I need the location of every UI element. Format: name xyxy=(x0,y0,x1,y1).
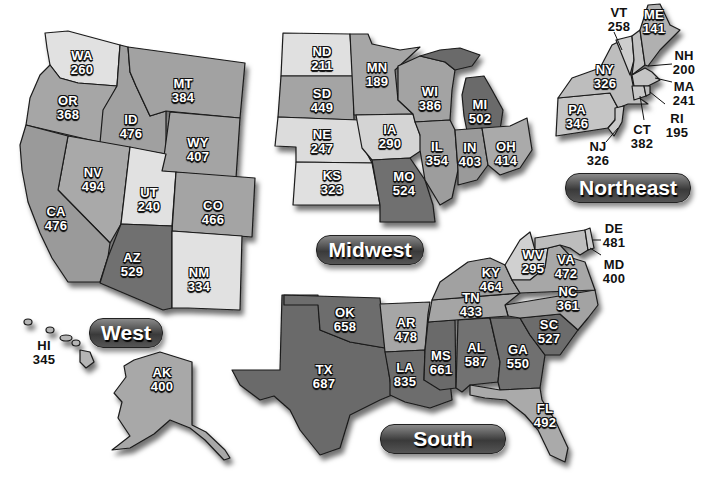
label-sc: SC527 xyxy=(538,318,560,346)
label-id: ID476 xyxy=(120,113,142,141)
label-or: OR368 xyxy=(57,94,79,122)
label-pa: PA346 xyxy=(566,103,588,131)
region-badge-west[interactable]: West xyxy=(89,318,163,348)
label-ut: UT240 xyxy=(138,186,160,214)
label-nc: NC361 xyxy=(557,285,579,313)
state-hi-island-2[interactable] xyxy=(46,327,54,333)
label-sd: SD449 xyxy=(311,87,333,115)
label-nd: ND211 xyxy=(311,45,333,73)
label-ar: AR478 xyxy=(395,316,417,344)
label-oh: OH414 xyxy=(495,140,517,168)
label-ma: MA241 xyxy=(673,80,695,108)
label-la: LA835 xyxy=(394,361,416,389)
label-ca: CA476 xyxy=(45,205,67,233)
label-mt: MT384 xyxy=(172,77,194,105)
label-ne: NE247 xyxy=(311,128,333,156)
label-tn: TN433 xyxy=(460,291,482,319)
label-de: DE481 xyxy=(603,222,625,250)
label-mn: MN189 xyxy=(366,61,388,89)
label-ga: GA550 xyxy=(507,343,529,371)
label-ri: RI195 xyxy=(666,112,688,140)
label-ia: IA290 xyxy=(379,123,401,151)
label-in: IN403 xyxy=(459,141,481,169)
label-ks: KS323 xyxy=(321,169,343,197)
label-va: VA472 xyxy=(555,253,577,281)
label-me: ME141 xyxy=(643,8,665,36)
label-az: AZ529 xyxy=(121,251,143,279)
label-wi: WI386 xyxy=(419,85,441,113)
state-hi-island-3[interactable] xyxy=(60,335,72,341)
state-hi-island-1[interactable] xyxy=(24,319,32,325)
region-badge-midwest[interactable]: Midwest xyxy=(316,235,424,265)
label-ky: KY464 xyxy=(480,266,502,294)
label-nv: NV494 xyxy=(82,166,104,194)
label-wa: WA260 xyxy=(71,49,93,77)
label-ct: CT382 xyxy=(631,123,653,151)
region-west xyxy=(20,31,255,460)
state-hi-big-island[interactable] xyxy=(80,350,94,368)
label-vt: VT258 xyxy=(608,6,630,34)
label-ms: MS661 xyxy=(430,349,452,377)
label-nm: NM334 xyxy=(188,266,210,294)
label-mo: MO524 xyxy=(393,170,415,198)
label-nh: NH200 xyxy=(673,49,695,77)
label-ak: AK400 xyxy=(151,366,173,394)
region-badge-northeast[interactable]: Northeast xyxy=(565,173,691,203)
label-nj: NJ326 xyxy=(587,140,609,168)
label-al: AL587 xyxy=(465,341,487,369)
label-mi: MI502 xyxy=(469,98,491,126)
label-wy: WY407 xyxy=(187,136,209,164)
label-co: CO466 xyxy=(202,199,224,227)
label-fl: FL492 xyxy=(534,402,556,430)
label-tx: TX687 xyxy=(313,363,335,391)
label-ok: OK658 xyxy=(334,306,356,334)
state-hi-island-4[interactable] xyxy=(72,340,80,346)
label-ny: NY326 xyxy=(594,63,616,91)
label-wv: WV295 xyxy=(522,248,544,276)
label-hi: HI345 xyxy=(33,339,55,367)
label-md: MD400 xyxy=(603,258,625,286)
region-badge-south[interactable]: South xyxy=(380,424,506,454)
label-il: IL354 xyxy=(426,140,448,168)
